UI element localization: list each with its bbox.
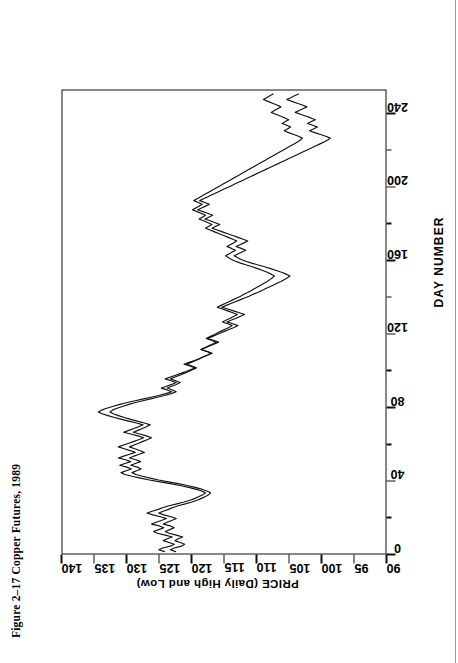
price-tick-label: 105 [289,561,310,575]
day-tick-minor [387,149,392,151]
figure-page: Figure 2–17 Copper Futures, 1989 0408012… [0,0,458,663]
price-tick-label: 135 [94,561,115,575]
price-tick-label: 130 [127,561,148,575]
price-tick-label: 95 [354,561,368,575]
price-tick-label: 90 [387,561,401,575]
day-tick-label: 0 [394,541,401,555]
day-tick-minor [387,443,392,445]
day-tick-minor [387,296,392,298]
series-line-0 [98,94,330,552]
day-tick-label: 240 [387,99,408,113]
price-tick-label: 100 [322,561,343,575]
day-number-axis-ticks: 04080120160200240 [387,90,397,555]
price-tick-label: 140 [62,561,83,575]
day-tick-label: 40 [391,467,405,481]
day-tick-minor [387,517,392,519]
price-tick-label: 120 [192,561,213,575]
price-axis-title: PRICE (Daily High and Low) [93,578,343,590]
day-number-axis-title: DAY NUMBER [432,30,446,495]
plot-area [62,90,387,555]
day-number-axis-title-wrap: DAY NUMBER [432,90,450,555]
price-tick-label: 110 [257,561,277,575]
day-tick-label: 120 [387,320,408,334]
day-tick-label: 200 [387,173,408,187]
price-tick-label: 125 [159,561,180,575]
figure-caption: Figure 2–17 Copper Futures, 1989 [10,398,22,638]
price-line-chart [63,89,388,554]
chart-stage: 04080120160200240 DAY NUMBER 14013513012… [40,50,420,615]
page-edge-rule [455,0,456,663]
price-axis-ticks: 1401351301251201151101051009590 [62,555,387,565]
day-tick-minor [387,370,392,372]
series-line-1 [110,94,302,552]
day-tick-label: 160 [387,246,408,260]
price-tick-label: 115 [224,561,244,575]
day-tick-label: 80 [391,393,405,407]
day-tick-minor [387,223,392,225]
